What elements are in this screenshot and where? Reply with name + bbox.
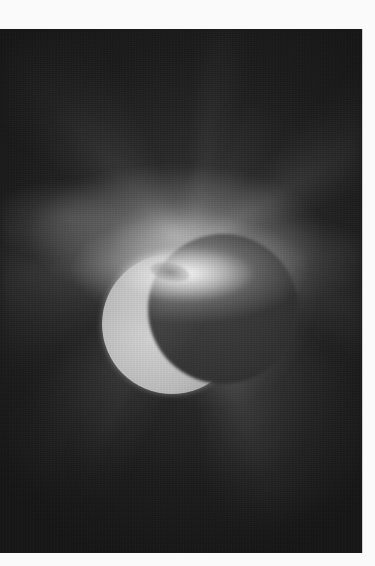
page (0, 0, 375, 566)
moon-shadow (148, 234, 298, 384)
astronomical-photo (0, 29, 363, 553)
image-caption (60, 556, 360, 566)
